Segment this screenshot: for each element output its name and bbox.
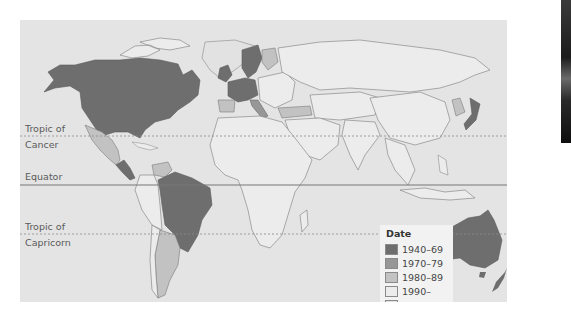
legend-swatch bbox=[385, 258, 398, 269]
legend-label: 1990– bbox=[402, 286, 431, 297]
map-panel: Tropic of Cancer Equator Tropic of Capri… bbox=[20, 20, 507, 302]
region-china bbox=[370, 92, 450, 145]
region-finland bbox=[262, 48, 278, 70]
tropic-of-capricorn-label-2: Capricorn bbox=[25, 237, 71, 248]
region-turkey bbox=[278, 106, 312, 118]
region-indonesia bbox=[400, 188, 475, 200]
region-eastern-europe bbox=[258, 72, 295, 108]
equator-label: Equator bbox=[25, 171, 62, 182]
legend-title: Date bbox=[386, 228, 411, 239]
legend-swatch bbox=[385, 300, 398, 303]
region-korea bbox=[452, 98, 465, 116]
legend-label: 1980–89 bbox=[402, 272, 443, 283]
legend-item-1980-89: 1980–89 bbox=[385, 270, 443, 284]
region-india bbox=[342, 120, 380, 170]
region-arctic-islands bbox=[120, 38, 190, 58]
region-central-america bbox=[116, 160, 135, 180]
tropic-of-cancer-label-1: Tropic of bbox=[25, 123, 65, 134]
region-new-zealand bbox=[492, 268, 507, 292]
legend-swatch bbox=[385, 286, 398, 297]
legend-item-1970-79: 1970–79 bbox=[385, 256, 443, 270]
region-caribbean bbox=[132, 142, 158, 150]
region-russia bbox=[278, 40, 490, 92]
legend-item-1940-69: 1940–69 bbox=[385, 242, 443, 256]
legend-label: 1970–79 bbox=[402, 258, 443, 269]
legend-swatch bbox=[385, 272, 398, 283]
map-legend: Date 1940–69 1970–79 1980–89 1990– None bbox=[380, 225, 453, 302]
region-north-america bbox=[44, 58, 200, 138]
legend-label: None bbox=[402, 300, 427, 303]
legend-swatch bbox=[385, 244, 398, 255]
region-colombia-peru bbox=[135, 175, 162, 230]
region-argentina bbox=[155, 230, 180, 298]
region-central-asia bbox=[310, 92, 380, 120]
legend-item-none: None bbox=[385, 298, 427, 302]
region-tasmania bbox=[479, 272, 486, 278]
legend-label: 1940–69 bbox=[402, 244, 443, 255]
region-philippines bbox=[438, 155, 448, 175]
adjacent-photo-edge bbox=[561, 0, 571, 143]
region-madagascar bbox=[300, 210, 308, 232]
tropic-of-capricorn-label-1: Tropic of bbox=[25, 221, 65, 232]
tropic-of-cancer-label-2: Cancer bbox=[25, 139, 58, 150]
legend-item-1990: 1990– bbox=[385, 284, 431, 298]
region-iberia bbox=[218, 100, 235, 112]
region-scandinavia bbox=[242, 45, 262, 78]
region-southeast-asia bbox=[385, 138, 415, 185]
region-western-europe bbox=[228, 78, 258, 102]
region-japan bbox=[464, 98, 480, 130]
